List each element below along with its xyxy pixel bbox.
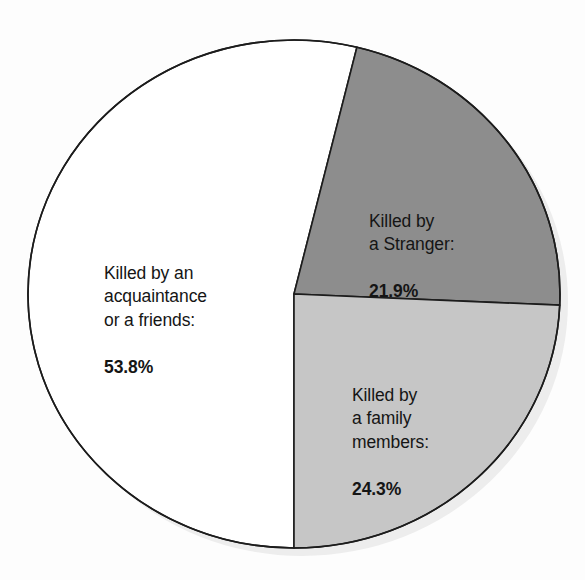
pie-slice-family[interactable] [294,294,560,548]
pie-chart-figure: Killed by an acquaintance or a friends: … [0,0,585,580]
pie-chart-graphic [0,0,585,580]
